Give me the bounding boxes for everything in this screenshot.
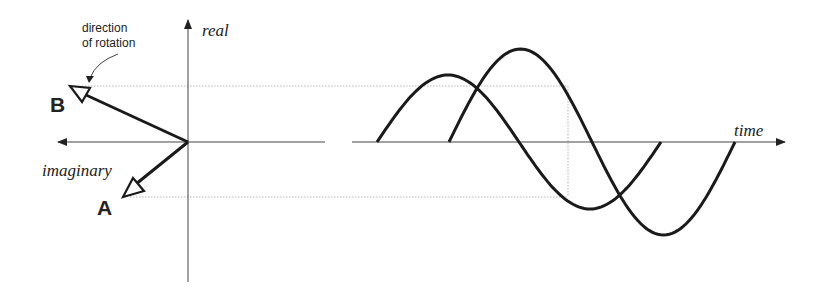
real-axis-label: real (202, 21, 229, 40)
phasor-a-label: A (97, 196, 112, 219)
phasor-b-arrowhead-icon (70, 86, 90, 102)
rotation-arrowhead-icon (86, 76, 94, 83)
time-axis-label: time (734, 121, 764, 140)
phasor-waveform-diagram: real imaginary time direction of rotatio… (0, 0, 820, 294)
phasor-b-label: B (50, 93, 65, 116)
imaginary-axis-label: imaginary (42, 161, 112, 180)
rotation-annotation-line1: direction (82, 21, 127, 35)
phasor-a (123, 142, 188, 197)
rotation-annotation-line2: of rotation (82, 36, 135, 50)
phasor-b (70, 86, 188, 142)
rotation-curved-arrow (90, 54, 118, 78)
